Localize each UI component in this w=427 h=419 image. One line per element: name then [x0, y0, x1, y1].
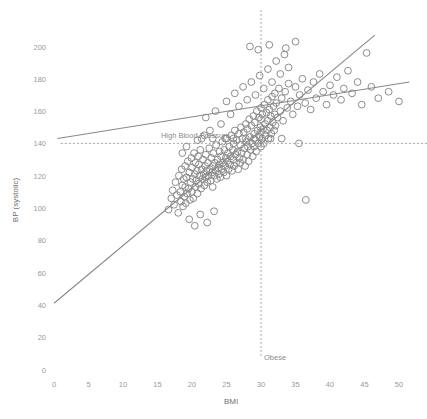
- annotation-label-high-blood-pressure: High Blood Pressure: [161, 131, 230, 140]
- plot-background: [0, 0, 427, 419]
- y-tick-label-80: 80: [38, 236, 46, 245]
- x-tick-label-25: 25: [222, 380, 230, 389]
- x-axis-title: BMI: [224, 397, 238, 406]
- y-tick-label-20: 20: [38, 333, 46, 342]
- x-tick-label-45: 45: [360, 380, 368, 389]
- y-tick-label-120: 120: [33, 172, 46, 181]
- scatter-plot-figure: 05101520253035404550 0204060801001201401…: [0, 0, 427, 419]
- x-tick-label-30: 30: [257, 380, 265, 389]
- y-tick-label-0: 0: [42, 366, 46, 375]
- chart-canvas: 05101520253035404550 0204060801001201401…: [0, 0, 427, 419]
- x-tick-label-50: 50: [395, 380, 403, 389]
- x-tick-label-10: 10: [119, 380, 127, 389]
- y-tick-label-160: 160: [33, 107, 46, 116]
- x-tick-label-5: 5: [86, 380, 90, 389]
- y-tick-label-60: 60: [38, 269, 46, 278]
- x-tick-label-0: 0: [52, 380, 56, 389]
- x-tick-label-40: 40: [326, 380, 334, 389]
- y-axis-title: BP (systolic): [11, 178, 20, 223]
- x-tick-label-35: 35: [291, 380, 299, 389]
- annotation-label-obese: Obese: [264, 353, 286, 362]
- x-tick-label-20: 20: [188, 380, 196, 389]
- y-tick-label-200: 200: [33, 43, 46, 52]
- y-tick-label-140: 140: [33, 139, 46, 148]
- y-tick-label-40: 40: [38, 301, 46, 310]
- y-tick-label-180: 180: [33, 75, 46, 84]
- y-tick-label-100: 100: [33, 204, 46, 213]
- x-tick-label-15: 15: [153, 380, 161, 389]
